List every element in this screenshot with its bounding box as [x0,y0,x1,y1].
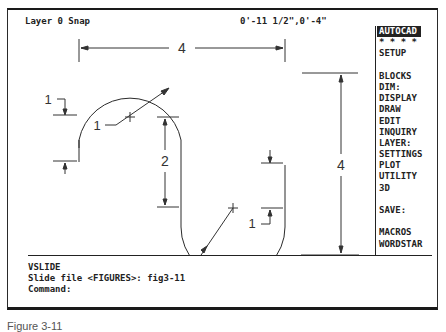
menu-item-wordstar[interactable]: WORDSTAR [376,239,436,250]
figure-caption: Figure 3-11 [7,320,62,332]
menu-item-separator[interactable]: * * * * [376,37,436,48]
command-history-line: Slide file <FIGURES>: fig3-11 [28,273,185,284]
command-history-line: VSLIDE [28,262,185,273]
upper-radius-leader [105,88,169,125]
menu-item-inquiry[interactable]: INQUIRY [376,127,436,138]
height-dimension [301,73,359,255]
menu-item-edit[interactable]: EDIT [376,116,436,127]
menu-item-blocks[interactable]: BLOCKS [376,71,436,82]
menu-item-draw[interactable]: DRAW [376,104,436,115]
menu-gap [376,60,436,71]
autocad-screen: Layer 0 Snap 0'-11 1/2",0'-4" 4 [7,8,438,310]
drawing-area[interactable]: 4 4 2 1 [8,10,374,255]
menu-gap [376,216,436,227]
menu-item-utility[interactable]: UTILITY [376,171,436,182]
menu-item-autocad[interactable]: AUTOCAD [377,26,421,37]
menu-item-dim[interactable]: DIM: [376,82,436,93]
command-prompt[interactable]: Command: [28,284,185,295]
menu-item-plot[interactable]: PLOT [376,160,436,171]
menu-item-save[interactable]: SAVE: [376,205,436,216]
command-area[interactable]: VSLIDE Slide file <FIGURES>: fig3-11 Com… [28,262,185,295]
upper-arc [79,98,285,255]
straight-length-label: 2 [161,153,169,169]
menu-item-display[interactable]: DISPLAY [376,93,436,104]
menu-item-macros[interactable]: MACROS [376,227,436,238]
menu-item-settings[interactable]: SETTINGS [376,149,436,160]
menu-gap [376,194,436,205]
menu-item-3d[interactable]: 3D [376,183,436,194]
menu-item-layer[interactable]: LAYER: [376,138,436,149]
right-offset-dimension [261,150,283,224]
lower-radius-leader [185,203,238,255]
menu-item-setup[interactable]: SETUP [376,48,436,59]
left-offset-label: 1 [44,92,51,107]
right-offset-label: 1 [248,216,255,231]
left-offset-dimension [53,99,77,174]
width-label: 4 [178,40,186,56]
screen-menu: AUTOCAD * * * * SETUP BLOCKS DIM: DISPLA… [375,26,436,255]
upper-radius-label: 1 [93,118,100,133]
command-area-divider [28,255,432,256]
height-label: 4 [337,157,345,173]
